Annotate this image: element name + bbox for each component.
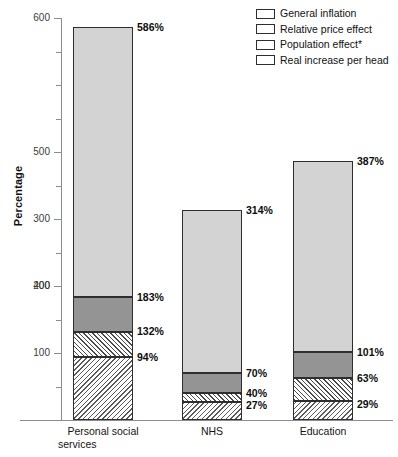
segment-population-effect — [293, 378, 353, 401]
y-tick-550 — [56, 85, 61, 86]
legend-item-general-inflation: General inflation — [256, 6, 396, 22]
segment-relative-price-effect — [293, 352, 353, 378]
legend-swatch-general-inflation — [256, 9, 275, 19]
segment-real-increase-per-head — [182, 402, 242, 420]
x-category-line2: services — [58, 438, 153, 451]
legend-label-general-inflation: General inflation — [280, 8, 356, 19]
segment-real-increase-per-head — [73, 357, 133, 420]
legend-swatch-relative-price-effect — [256, 24, 275, 34]
x-axis-line — [20, 420, 393, 421]
value-label-nhs-real: 27% — [246, 400, 267, 411]
segment-relative-price-effect — [73, 297, 133, 331]
y-tick-100 — [54, 353, 61, 354]
y-tick-label-300: 300 — [16, 214, 50, 224]
value-label-edu-relative: 101% — [357, 347, 384, 358]
y-tick-150 — [56, 320, 61, 321]
stacked-bar-chart: Percentage 600 500 400 300 200 100 Per — [0, 0, 398, 457]
x-category-label-personal-social-services: Personal social services — [53, 425, 153, 450]
value-label-edu-general: 387% — [357, 156, 384, 167]
x-category-label-education: Education — [283, 425, 363, 438]
y-axis-title: Percentage — [12, 141, 24, 251]
y-tick-300 — [54, 219, 61, 220]
legend-item-real-increase-per-head: Real increase per head — [256, 53, 396, 69]
legend-item-relative-price-effect: Relative price effect — [256, 22, 396, 38]
segment-general-inflation — [73, 27, 133, 297]
y-axis-line — [61, 18, 62, 420]
y-tick-label-200: 200 — [16, 281, 50, 291]
y-tick-500 — [54, 152, 61, 153]
segment-population-effect — [73, 332, 133, 358]
y-tick-label-500: 500 — [16, 147, 50, 157]
y-tick-350b — [56, 186, 61, 187]
value-label-nhs-relative: 70% — [246, 368, 267, 379]
value-label-nhs-population: 40% — [246, 388, 267, 399]
y-tick-550b — [56, 52, 61, 53]
segment-relative-price-effect — [182, 373, 242, 393]
legend-item-population-effect: Population effect* — [256, 37, 396, 53]
x-category-nhs-line1: NHS — [201, 425, 223, 437]
value-label-psl-population: 132% — [137, 326, 164, 337]
y-tick-600 — [54, 18, 61, 19]
segment-real-increase-per-head — [293, 401, 353, 420]
value-label-nhs-general: 314% — [246, 205, 273, 216]
x-category-label-nhs: NHS — [182, 425, 242, 438]
y-tick-200 — [54, 286, 61, 287]
legend-swatch-population-effect — [256, 40, 275, 50]
x-category-line1: Personal social — [67, 425, 138, 437]
value-label-psl-general: 586% — [137, 22, 164, 33]
value-label-edu-population: 63% — [357, 373, 378, 384]
value-label-edu-real: 29% — [357, 399, 378, 410]
segment-population-effect — [182, 393, 242, 402]
legend-label-relative-price-effect: Relative price effect — [280, 24, 372, 35]
y-tick-label-600: 600 — [16, 13, 50, 23]
segment-general-inflation — [182, 210, 242, 374]
legend: General inflation Relative price effect … — [256, 6, 396, 68]
y-tick-50 — [56, 387, 61, 388]
legend-label-population-effect: Population effect* — [280, 39, 362, 50]
value-label-psl-real: 94% — [137, 352, 158, 363]
legend-label-real-increase-per-head: Real increase per head — [280, 55, 389, 66]
y-tick-label-100: 100 — [16, 348, 50, 358]
y-tick-450b — [56, 119, 61, 120]
segment-general-inflation — [293, 161, 353, 353]
legend-swatch-real-increase-per-head — [256, 55, 275, 65]
y-tick-250 — [56, 253, 61, 254]
value-label-psl-relative: 183% — [137, 292, 164, 303]
x-category-education-line1: Education — [300, 425, 347, 437]
